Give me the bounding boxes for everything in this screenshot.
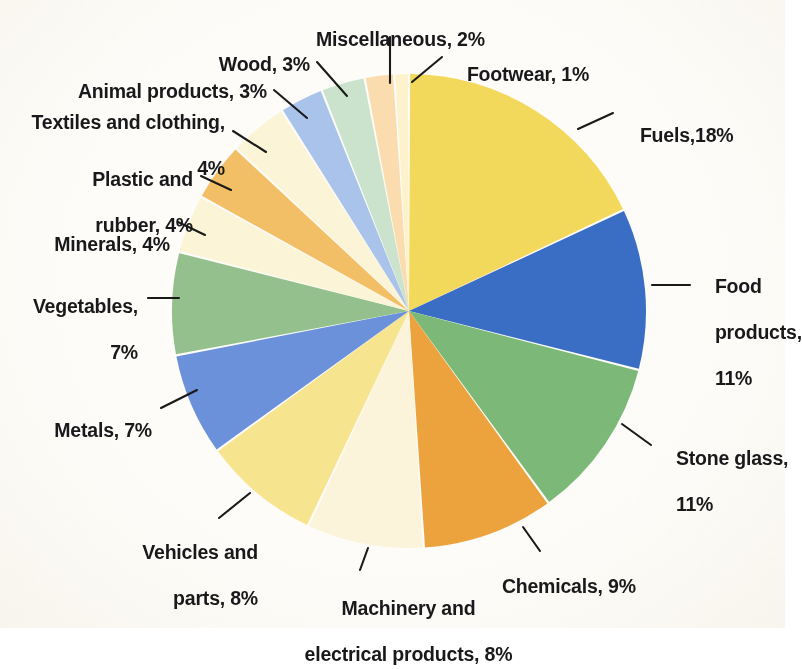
slice-label-food-products-line1: Food (715, 275, 762, 297)
leader-line-vehicles (219, 493, 250, 518)
leader-line-machinery (360, 548, 368, 570)
leader-line-fuels (578, 113, 613, 129)
pie-slice-group (172, 74, 646, 548)
slice-label-machinery-line2: electrical products, 8% (305, 643, 513, 665)
leader-line-chemicals (523, 527, 540, 551)
slice-label-stone-glass-line1: Stone glass, (676, 447, 788, 469)
slice-label-wood: Wood, 3% (0, 30, 310, 99)
slice-label-vehicles-line1: Vehicles and (142, 541, 258, 563)
slice-label-plastic-rubber-line2: rubber, 4% (95, 214, 193, 236)
leader-line-stone-glass (622, 424, 651, 445)
slice-label-machinery-line1: Machinery and (341, 597, 475, 619)
slice-label-vehicles: Vehicles and parts, 8% (108, 518, 258, 633)
slice-label-vegetables-line2: 7% (110, 341, 138, 363)
slice-label-chemicals-text: Chemicals, 9% (502, 575, 636, 597)
slice-label-food-products-line3: 11% (715, 367, 752, 389)
slice-label-food-products: Food products, 11% (694, 252, 802, 413)
slice-label-metals: Metals, 7% (0, 396, 152, 465)
slice-label-stone-glass: Stone glass, 11% (655, 424, 788, 539)
slice-label-vegetables-line1: Vegetables, (33, 295, 138, 317)
slice-label-vegetables: Vegetables, 7% (0, 272, 138, 387)
slice-label-textiles-line2: 4% (197, 157, 225, 179)
slice-label-metals-text: Metals, 7% (54, 419, 152, 441)
slice-label-footwear: Footwear, 1% (446, 40, 589, 109)
slice-label-stone-glass-line2: 11% (676, 493, 713, 515)
slice-label-vehicles-line2: parts, 8% (173, 587, 258, 609)
slice-label-fuels: Fuels,18% (619, 101, 733, 170)
slice-label-fuels-text: Fuels,18% (640, 124, 734, 146)
slice-label-machinery: Machinery and electrical products, 8% (278, 574, 518, 669)
slice-label-food-products-line2: products, (715, 321, 802, 343)
slice-label-footwear-text: Footwear, 1% (467, 63, 589, 85)
